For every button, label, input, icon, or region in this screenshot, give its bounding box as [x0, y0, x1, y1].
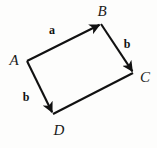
- vector-arrow-ab: [27, 25, 100, 61]
- vector-diagram-canvas: [0, 0, 157, 148]
- vector-label-a-ab: a: [49, 24, 55, 36]
- vertex-label-d: D: [54, 123, 65, 138]
- vector-label-b-bc: b: [124, 38, 131, 50]
- vertex-label-c: C: [140, 70, 150, 85]
- vector-line-dc: [53, 73, 133, 114]
- vector-arrow-ad: [27, 61, 52, 112]
- vector-label-b-ad: b: [23, 91, 30, 103]
- vector-parallelogram-figure: A B C D a b b: [0, 0, 157, 148]
- vertex-label-a: A: [9, 53, 18, 68]
- vertex-label-b: B: [97, 4, 106, 19]
